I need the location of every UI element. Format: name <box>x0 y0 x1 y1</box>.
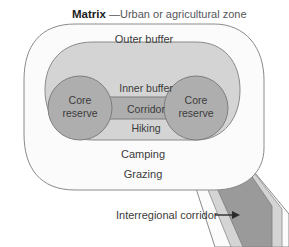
label-inner-buffer: Inner buffer <box>119 82 173 94</box>
label-core-reserve-right-line2: reserve <box>178 107 213 119</box>
figure-container: Matrix —Urban or agricultural zone Outer… <box>0 0 289 247</box>
label-core-reserve-right-line1: Core <box>185 94 208 106</box>
label-camping: Camping <box>121 148 165 160</box>
label-grazing: Grazing <box>124 168 163 180</box>
label-hiking: Hiking <box>131 122 160 134</box>
label-corridor: Corridor <box>127 103 165 115</box>
label-core-reserve-left-line1: Core <box>69 94 92 106</box>
reserve-design-diagram: Matrix —Urban or agricultural zone Outer… <box>0 0 289 247</box>
label-interregional-corridor: Interregional corridor <box>116 209 218 221</box>
label-outer-buffer: Outer buffer <box>115 33 174 45</box>
figure-title-matrix: Matrix <box>72 8 106 20</box>
label-core-reserve-left-line2: reserve <box>62 107 97 119</box>
figure-title-subtitle: —Urban or agricultural zone <box>109 8 247 20</box>
